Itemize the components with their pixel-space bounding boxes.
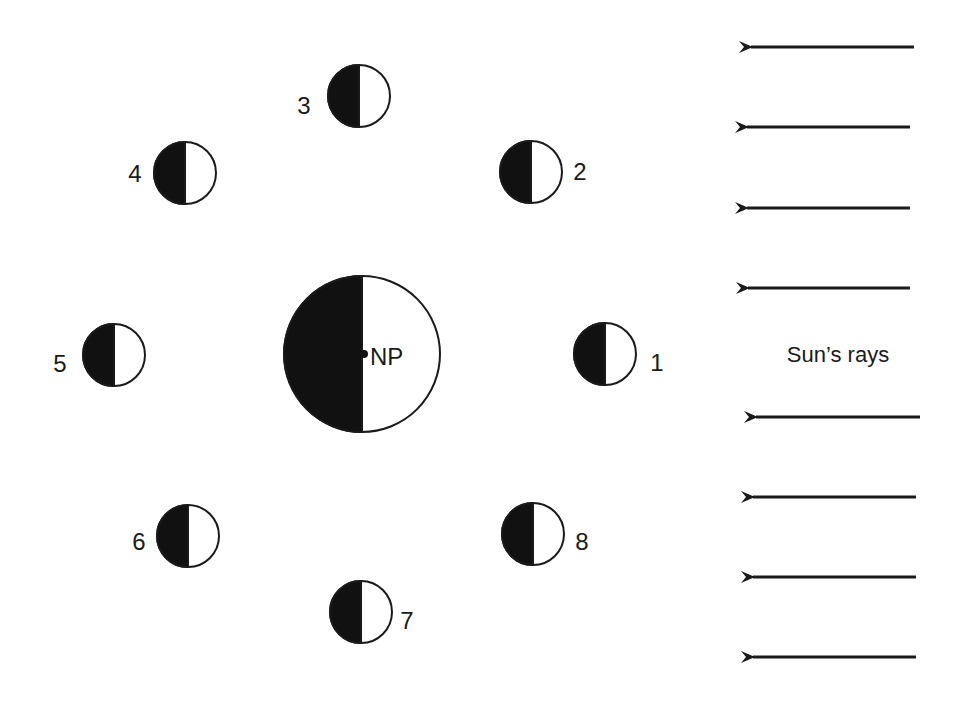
north-pole-dot bbox=[360, 350, 368, 358]
moon-dark-half bbox=[154, 142, 185, 204]
moon-number-label: 6 bbox=[132, 528, 145, 555]
moon-position-8: 8 bbox=[502, 503, 589, 565]
moon-dark-half bbox=[574, 323, 605, 385]
moon-position-2: 2 bbox=[500, 141, 587, 203]
moon-number-label: 8 bbox=[575, 528, 588, 555]
moon-number-label: 3 bbox=[297, 92, 310, 119]
moon-position-1: 1 bbox=[574, 323, 664, 385]
moon-number-label: 1 bbox=[650, 349, 663, 376]
moon-position-5: 5 bbox=[53, 324, 145, 386]
moon-number-label: 4 bbox=[128, 160, 141, 187]
moon-phases-diagram: NP 12345678 Sun’s rays bbox=[0, 0, 969, 705]
earth: NP bbox=[284, 276, 440, 432]
moon-dark-half bbox=[500, 141, 531, 203]
earth-dark-half bbox=[284, 276, 362, 432]
moon-dark-half bbox=[83, 324, 114, 386]
moon-number-label: 7 bbox=[400, 607, 413, 634]
moon-dark-half bbox=[502, 503, 533, 565]
moon-dark-half bbox=[330, 581, 361, 643]
moon-dark-half bbox=[157, 505, 188, 567]
moon-number-label: 2 bbox=[573, 158, 586, 185]
moon-position-4: 4 bbox=[128, 142, 216, 204]
moon-position-3: 3 bbox=[297, 65, 390, 127]
moon-dark-half bbox=[328, 65, 359, 127]
moon-position-7: 7 bbox=[330, 581, 414, 643]
north-pole-label: NP bbox=[370, 343, 403, 370]
sun-rays-label: Sun’s rays bbox=[787, 342, 889, 367]
moon-number-label: 5 bbox=[53, 350, 66, 377]
moon-position-6: 6 bbox=[132, 505, 219, 567]
